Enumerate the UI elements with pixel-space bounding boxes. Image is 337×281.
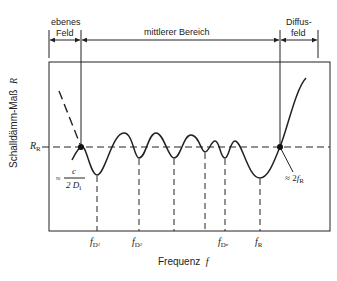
left-approx: ≈ xyxy=(56,175,60,183)
right-annotation: ≈ 2fR xyxy=(285,174,304,185)
feld-label: Feld xyxy=(56,29,74,38)
tick-fdn: fDn xyxy=(218,237,228,249)
insulation-curve xyxy=(72,78,306,178)
sound-insulation-diagram xyxy=(0,0,337,281)
tick-fr: fR xyxy=(255,237,262,249)
feld2-label: feld xyxy=(291,29,306,38)
rr-label: RR xyxy=(30,141,41,153)
x-axis-label: Frequenz f xyxy=(158,257,209,267)
left-intersection-point xyxy=(78,144,84,150)
mass-law-dashed xyxy=(59,91,80,144)
left-denominator: 2 Di xyxy=(66,181,81,192)
diffus-label: Diffus- xyxy=(286,18,312,27)
mittlerer-bereich-label: mittlerer Bereich xyxy=(144,28,210,37)
y-axis-label: Schalldämm-Maß R xyxy=(8,78,19,168)
tick-fd2: fD2 xyxy=(132,237,142,249)
right-intersection-point xyxy=(277,144,283,150)
tick-fd1: fD1 xyxy=(90,237,100,249)
left-numerator: c xyxy=(72,167,76,176)
ebenes-label: ebenes xyxy=(51,18,81,27)
right-point-pointer xyxy=(280,147,293,172)
